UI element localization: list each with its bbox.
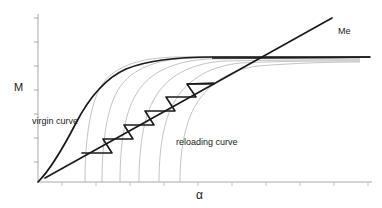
me-line	[45, 18, 332, 178]
reloading-curve-4	[139, 60, 360, 182]
reloading-curve-5	[159, 61, 360, 182]
virgin-curve	[38, 57, 370, 182]
y-axis-label: M	[14, 82, 23, 93]
reloading-curve-family	[85, 57, 360, 182]
y-axis-ticks	[34, 18, 38, 162]
plot-canvas	[0, 0, 382, 208]
x-axis-ticks	[62, 182, 368, 186]
magnetization-figure: M α Me virgin curve reloading curve	[0, 0, 382, 208]
axis-group	[34, 14, 372, 186]
reloading-curve-2	[102, 58, 360, 182]
virgin-curve-label: virgin curve	[32, 117, 78, 126]
me-curve-label: Me	[338, 27, 351, 36]
reloading-curve-label: reloading curve	[176, 138, 238, 147]
reloading-curve-6	[180, 62, 360, 182]
reloading-curve-3	[120, 59, 360, 182]
staircase-top-connector	[187, 83, 214, 84]
x-axis-label: α	[196, 189, 203, 201]
